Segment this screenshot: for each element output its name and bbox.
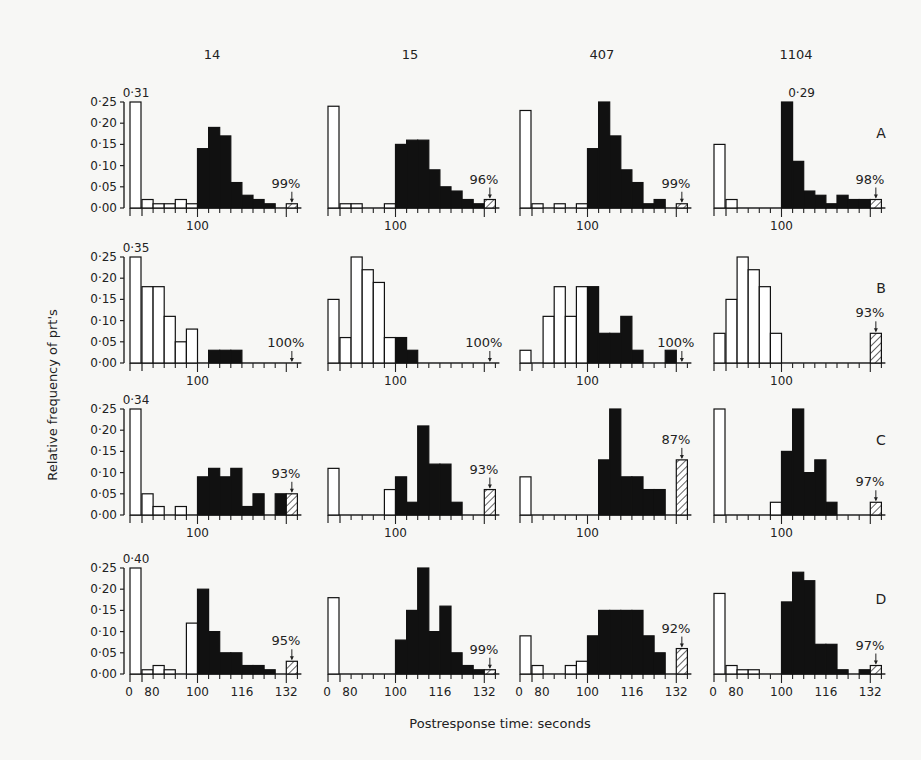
panel-A-1104: 1000·2998%A [714,86,886,233]
bar [621,477,632,515]
bar [793,572,804,674]
bar [384,204,395,208]
y-axis-label: Relative frequency of prt's [45,309,60,481]
x-tick-label: 132 [275,685,298,699]
y-tick-label: 0·20 [90,271,117,285]
bar [632,477,643,515]
panel-D-14: 0·250·200·150·100·050·000801001161320·40… [90,552,301,699]
bar [440,187,451,208]
percent-label: 99% [271,176,300,191]
bar [142,494,153,515]
percent-label: 97% [855,474,884,489]
bar [164,670,175,674]
x-tick-label: 116 [428,685,451,699]
y-tick-label: 0·25 [90,561,117,575]
bar [340,204,351,208]
bar [231,183,242,208]
bar [231,468,242,515]
bar [451,653,462,674]
bar [554,204,565,208]
y-tick-label: 0·25 [90,250,117,264]
y-tick-label: 0·05 [90,487,117,501]
percent-label: 97% [855,638,884,653]
bar [220,136,231,208]
bar-zero-bin [714,144,725,208]
x-axis-label: Postresponse time: seconds [409,716,591,731]
bar [209,350,220,363]
y-tick-label: 0·15 [90,444,117,458]
y-tick-label: 0·20 [90,116,117,130]
bar [407,502,418,515]
bar [848,200,859,208]
percent-label: 93% [855,305,884,320]
bar [175,342,186,363]
bar [632,183,643,208]
bar [565,316,576,363]
x-tick-label: 0 [323,685,331,699]
bar [599,102,610,208]
y-tick-label: 0·25 [90,95,117,109]
bar [396,338,407,363]
bar-zero-bin [130,257,141,363]
bar [826,644,837,674]
bar-zero-bin [328,106,339,208]
bar [242,507,253,515]
panel-D-407: 08010011613292% [515,610,691,699]
bar [610,409,621,515]
y-tick-label: 0·20 [90,582,117,596]
bar [462,666,473,674]
x-tick-label: 100 [576,219,599,233]
percent-label: 100% [465,335,502,350]
bar [164,204,175,208]
bar [654,490,665,515]
bar [198,149,209,208]
bar [220,477,231,515]
y-tick-label: 0·25 [90,402,117,416]
bar-zero-bin [328,299,339,363]
panel-D-15: 08010011613299% [323,568,499,699]
y-tick-label: 0·00 [90,667,117,681]
x-tick-label: 80 [144,685,159,699]
bar [175,200,186,208]
percent-label: 100% [657,335,694,350]
bar [175,507,186,515]
bar [351,204,362,208]
bar [759,287,770,363]
bar [610,610,621,674]
bar [440,464,451,515]
bar [859,200,870,208]
y-tick-label: 0·20 [90,423,117,437]
percent-label: 95% [271,633,300,648]
bar [565,666,576,674]
bar [209,468,220,515]
bar [396,477,407,515]
row-label-C: C [876,432,886,448]
bar [418,426,429,515]
bar-hatched [676,649,687,674]
bar [396,640,407,674]
bar [748,670,759,674]
histogram-grid-figure: 141540711040·250·200·150·100·050·001000·… [0,0,921,760]
bar-hatched [286,661,297,674]
bar-zero-bin [520,636,531,674]
x-tick-label: 0 [709,685,717,699]
panel-A-407: 10099% [520,102,691,233]
bar-hatched [484,670,495,674]
x-tick-label: 100 [576,374,599,388]
percent-label: 100% [267,335,304,350]
x-tick-label: 100 [384,219,407,233]
panel-A-14: 0·250·200·150·100·050·001000·3199% [90,86,301,233]
bar [532,204,543,208]
bar [632,350,643,363]
bar [242,195,253,208]
bar [770,333,781,363]
percent-label: 96% [469,172,498,187]
bar-hatched [286,204,297,208]
percent-label: 99% [661,176,690,191]
percent-label: 92% [661,621,690,636]
bar-zero-bin [714,333,725,363]
bar [351,257,362,363]
bar [859,670,870,674]
x-tick-label: 100 [576,685,599,699]
row-label-D: D [876,591,887,607]
